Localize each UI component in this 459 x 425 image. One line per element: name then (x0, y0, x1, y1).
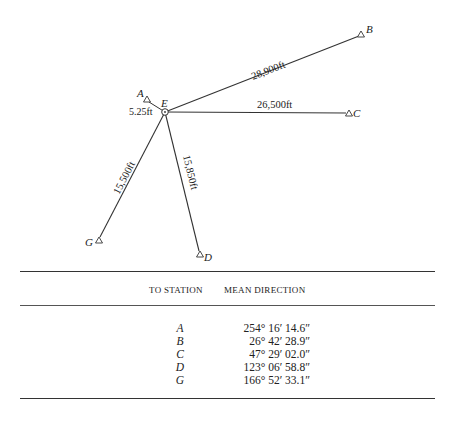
header-to-station: TO STATION (149, 285, 203, 295)
header-mean-direction: MEAN DIRECTION (224, 285, 305, 295)
table-row: C 47° 29′ 02.0″ (0, 348, 459, 361)
direction-cell: 123° 06′ 58.8″ (228, 361, 310, 373)
table-row: D 123° 06′ 58.8″ (0, 361, 459, 374)
line-E-C (165, 112, 346, 113)
station-E-icon (162, 109, 169, 116)
direction-cell: 47° 29′ 02.0″ (228, 348, 310, 360)
distance-label-B: 28,900ft (250, 59, 287, 82)
station-cell: D (170, 361, 190, 373)
station-label-B: B (366, 23, 373, 35)
distance-label-D: 15,850ft (181, 154, 200, 191)
line-E-G (100, 112, 165, 237)
station-D-triangle-icon (197, 251, 204, 257)
station-label-E: E (160, 97, 168, 109)
traverse-diagram: E A B C D G 5.25ft 28,900ft 26,500ft 15,… (0, 0, 459, 270)
station-G-triangle-icon (96, 237, 103, 243)
station-cell: C (170, 348, 190, 360)
table-top-rule (20, 271, 435, 272)
station-label-C: C (353, 107, 361, 119)
station-cell: A (170, 322, 190, 334)
station-label-G: G (85, 236, 93, 248)
direction-cell: 254° 16′ 14.6″ (228, 322, 310, 334)
direction-cell: 166° 52′ 33.1″ (228, 374, 310, 386)
table-row: G 166° 52′ 33.1″ (0, 374, 459, 387)
table-row: A 254° 16′ 14.6″ (0, 322, 459, 335)
table-row: B 26° 42′ 28.9″ (0, 335, 459, 348)
station-A-triangle-icon (144, 96, 151, 102)
direction-cell: 26° 42′ 28.9″ (228, 335, 310, 347)
station-C-triangle-icon (346, 110, 353, 116)
station-label-A: A (136, 87, 144, 99)
station-label-D: D (203, 251, 212, 263)
station-cell: G (170, 374, 190, 386)
station-cell: B (170, 335, 190, 347)
station-B-triangle-icon (358, 31, 365, 37)
distance-label-C: 26,500ft (257, 99, 292, 110)
distance-label-A: 5.25ft (129, 106, 153, 117)
table-bottom-rule (20, 398, 435, 399)
table-header-rule (20, 305, 435, 306)
